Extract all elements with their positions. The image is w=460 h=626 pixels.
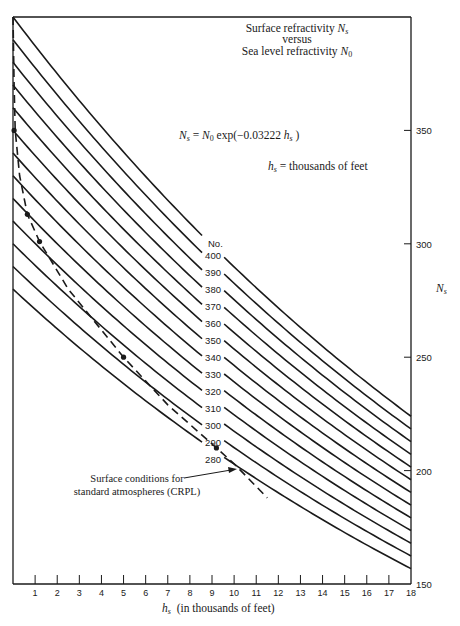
y-tick-label: 150 [416,579,432,590]
x-tick-label: 6 [143,588,148,598]
x-tick-label: 2 [55,588,60,598]
x-tick-label: 8 [187,588,192,598]
x-tick-label: 17 [384,588,394,598]
series-label-390: 390 [205,267,221,278]
x-tick-label: 3 [77,588,82,598]
y-tick-label: 350 [416,125,432,136]
x-tick-label: 13 [295,588,305,598]
annotation-line2: standard atmospheres (CRPL) [74,486,201,498]
standard-atmosphere-marker [121,355,126,360]
series-label-group: 400390380370360350340330320310300290280 [205,250,221,464]
y-tick-label: 250 [416,352,432,363]
curve-380-segment-b [224,291,411,442]
series-label-340: 340 [205,352,221,363]
annotation-arrow-head [228,467,237,473]
series-header-label: No. [208,238,223,249]
x-tick-label: 4 [99,588,104,598]
y-axis-ticks: 350300250200150 [404,125,432,590]
x-tick-label: 7 [165,588,170,598]
curve-300-segment-b [224,424,411,543]
curve-400-segment-a [13,17,202,235]
curve-330-segment-b [224,374,411,505]
chart-title-line3: Sea level refractivity N0 [242,45,352,59]
chart-title-line2: versus [282,33,312,45]
series-label-300: 300 [205,420,221,431]
series-label-320: 320 [205,386,221,397]
annotation-arrow [184,467,237,478]
series-label-330: 330 [205,369,221,380]
curve-310-segment-a [13,221,202,390]
x-tick-label: 10 [229,588,239,598]
curve-310-segment-b [224,407,411,530]
x-axis-label: hs (in thousands of feet) [162,602,275,616]
curve-320-segment-b [224,391,411,518]
curve-380-segment-a [13,62,202,270]
series-label-290: 290 [205,437,221,448]
x-tick-label: 16 [362,588,372,598]
refractivity-chart: 123456789101112131415161718 350300250200… [0,0,460,626]
standard-atmosphere-group [12,17,268,498]
curve-390-segment-a [13,40,202,253]
x-tick-label: 18 [406,588,416,598]
curve-290-segment-a [13,266,202,424]
x-tick-label: 5 [121,588,126,598]
series-label-360: 360 [205,318,221,329]
standard-atmosphere-marker [12,128,17,133]
x-tick-label: 1 [33,588,38,598]
y-tick-label: 300 [416,239,432,250]
curve-300-segment-a [13,244,202,408]
x-tick-label: 11 [252,588,261,598]
series-label-380: 380 [205,284,221,295]
annotation-arrow-shaft [184,470,231,478]
series-label-350: 350 [205,335,221,346]
x-tick-label: 15 [340,588,350,598]
y-axis-label: Ns [435,282,447,296]
x-tick-label: 9 [209,588,214,598]
annotation-line1: Surface conditions for [90,473,184,484]
standard-atmosphere-marker [25,212,30,217]
curve-400-segment-b [224,257,411,416]
series-label-370: 370 [205,301,221,312]
curve-390-segment-b [224,274,411,429]
series-label-310: 310 [205,403,221,414]
formula-annotation: Ns = N0 exp(−0.03222 hs ) [178,129,300,143]
unit-note: hs = thousands of feet [268,160,368,174]
curve-370-segment-a [13,85,202,287]
x-tick-label: 12 [273,588,283,598]
standard-atmosphere-curve [13,17,267,498]
x-axis-ticks: 123456789101112131415161718 [33,575,416,598]
series-label-400: 400 [205,250,221,261]
x-tick-label: 14 [318,588,328,598]
standard-atmosphere-marker [37,239,42,244]
curve-330-segment-a [13,176,202,356]
series-label-280: 280 [205,454,221,465]
y-tick-label: 200 [416,466,432,477]
